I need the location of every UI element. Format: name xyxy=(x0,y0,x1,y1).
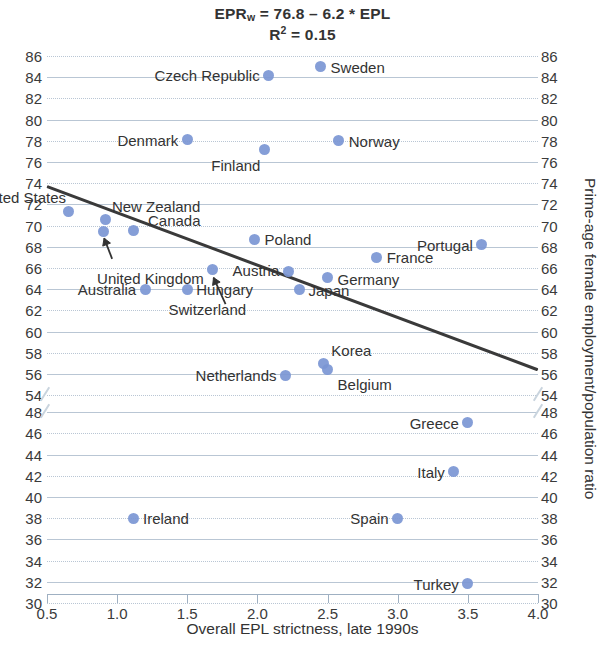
gridline xyxy=(47,183,538,185)
x-axis-tick-mark xyxy=(187,594,188,603)
y-axis-title-text: Prime-age female employment/population r… xyxy=(581,178,599,499)
gridline xyxy=(47,561,538,563)
x-axis-tick-mark xyxy=(538,594,539,603)
y-axis-tick-label: 72 xyxy=(2,197,42,212)
x-axis-tick-label: 2.5 xyxy=(298,606,358,621)
data-point[interactable] xyxy=(283,266,294,277)
r-squared: R2 = 0.15 xyxy=(0,25,605,46)
y-axis-tick-label: 56 xyxy=(2,367,42,382)
x-axis-tick-label: 2.0 xyxy=(227,606,287,621)
y-axis-tick-label: 86 xyxy=(541,49,581,64)
regression-equation: EPRw = 76.8 – 6.2 * EPL xyxy=(0,4,605,25)
gridline xyxy=(47,412,538,413)
data-point[interactable] xyxy=(182,134,193,145)
data-point[interactable] xyxy=(462,417,473,428)
y-axis-tick-label: 32 xyxy=(541,575,581,590)
data-point[interactable] xyxy=(476,239,487,250)
data-point[interactable] xyxy=(128,225,139,236)
y-axis-tick-label: 48 xyxy=(541,405,581,420)
data-point[interactable] xyxy=(371,252,382,263)
data-point-label: Hungary xyxy=(196,282,253,297)
data-point[interactable] xyxy=(280,370,291,381)
y-axis-tick-label: 80 xyxy=(541,113,581,128)
y-axis-tick-label: 60 xyxy=(541,325,581,340)
x-axis-tick-mark xyxy=(257,594,258,603)
y-axis-tick-label: 84 xyxy=(2,70,42,85)
gridline xyxy=(47,476,538,478)
gridline xyxy=(47,226,538,228)
data-point[interactable] xyxy=(392,513,403,524)
data-point-label: Ireland xyxy=(143,511,189,526)
data-point-label: Norway xyxy=(349,133,400,148)
gridline xyxy=(47,518,538,520)
data-point-label: Belgium xyxy=(338,376,392,391)
data-point[interactable] xyxy=(263,70,274,81)
data-point[interactable] xyxy=(63,206,74,217)
y-axis-tick-label: 70 xyxy=(541,219,581,234)
y-axis-tick-label: 84 xyxy=(541,70,581,85)
y-axis-tick-label: 44 xyxy=(2,448,42,463)
y-axis-tick-label: 68 xyxy=(2,240,42,255)
data-point-label: Netherlands xyxy=(196,368,277,383)
y-axis-tick-label: 76 xyxy=(2,155,42,170)
y-axis-tick-label: 42 xyxy=(2,469,42,484)
x-axis-tick-label: 3.5 xyxy=(438,606,498,621)
gridline xyxy=(47,56,538,58)
r2-superscript: 2 xyxy=(281,24,287,36)
plot-area: SwedenCzech RepublicDenmarkNorwayFinland… xyxy=(47,56,538,594)
y-axis-tick-label: 66 xyxy=(541,261,581,276)
data-point[interactable] xyxy=(315,61,326,72)
data-point-label: Finland xyxy=(211,158,260,173)
y-axis-tick-label: 42 xyxy=(541,469,581,484)
data-point[interactable] xyxy=(249,234,260,245)
data-point[interactable] xyxy=(98,226,109,237)
y-axis-tick-label: 68 xyxy=(541,240,581,255)
y-axis-tick-label: 86 xyxy=(2,49,42,64)
y-axis-tick-label: 78 xyxy=(2,134,42,149)
data-point[interactable] xyxy=(333,135,344,146)
x-axis-tick-label: 0.5 xyxy=(17,606,77,621)
x-axis-tick-label: 4.0 xyxy=(508,606,568,621)
y-axis-tick-label: 78 xyxy=(541,134,581,149)
x-axis-tick-mark xyxy=(398,594,399,603)
y-axis-tick-label: 48 xyxy=(2,405,42,420)
gridline xyxy=(47,433,538,435)
y-axis-tick-label: 70 xyxy=(2,219,42,234)
r2-rest: = 0.15 xyxy=(287,26,336,43)
y-axis-tick-label: 82 xyxy=(541,91,581,106)
data-point-label: Greece xyxy=(410,415,459,430)
equation-subscript: w xyxy=(247,11,255,23)
gridline xyxy=(47,539,538,540)
data-point-label: Italy xyxy=(417,464,445,479)
y-axis-tick-label: 40 xyxy=(541,490,581,505)
gridline xyxy=(47,395,538,397)
data-point-label: France xyxy=(387,250,434,265)
data-point[interactable] xyxy=(462,578,473,589)
gridline xyxy=(47,497,538,498)
chart-title-block: EPRw = 76.8 – 6.2 * EPL R2 = 0.15 xyxy=(0,4,605,46)
data-point[interactable] xyxy=(294,284,305,295)
data-point[interactable] xyxy=(182,284,193,295)
data-point[interactable] xyxy=(259,144,270,155)
gridline xyxy=(47,310,538,312)
y-axis-title: Prime-age female employment/population r… xyxy=(581,0,603,648)
y-axis-tick-label: 58 xyxy=(541,346,581,361)
data-point[interactable] xyxy=(140,284,151,295)
y-axis-tick-label: 62 xyxy=(541,303,581,318)
data-point[interactable] xyxy=(128,513,139,524)
data-point-label: Spain xyxy=(350,511,388,526)
data-point[interactable] xyxy=(100,214,111,225)
y-axis-tick-label: 54 xyxy=(541,388,581,403)
data-point-label: Denmark xyxy=(117,132,178,147)
y-axis-tick-label: 82 xyxy=(2,91,42,106)
y-axis-tick-label: 34 xyxy=(541,554,581,569)
data-point-label: Japan xyxy=(309,283,350,298)
data-point[interactable] xyxy=(207,264,218,275)
data-point-label: Switzerland xyxy=(169,302,247,317)
y-axis-tick-label: 46 xyxy=(2,426,42,441)
y-axis-tick-label: 72 xyxy=(541,197,581,212)
data-point-label: Korea xyxy=(331,343,371,358)
y-axis-tick-label: 36 xyxy=(2,532,42,547)
x-axis-line xyxy=(47,594,538,595)
x-axis-tick-mark xyxy=(468,594,469,603)
